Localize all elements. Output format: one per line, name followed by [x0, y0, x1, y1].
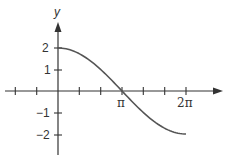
y-axis-label: y [54, 6, 60, 18]
y-tick-label-2: 2 [42, 42, 49, 54]
x-tick-label-pi: π [117, 97, 125, 109]
x-tick-label-2pi: 2π [177, 97, 193, 109]
y-tick-label-1: 1 [44, 64, 51, 76]
y-tick-label-neg1: −1 [36, 107, 50, 119]
y-tick-label-neg2: −2 [36, 129, 50, 141]
y-axis-arrow-icon [55, 22, 62, 32]
chart-canvas [0, 0, 230, 163]
x-axis-arrow-icon [213, 88, 223, 95]
